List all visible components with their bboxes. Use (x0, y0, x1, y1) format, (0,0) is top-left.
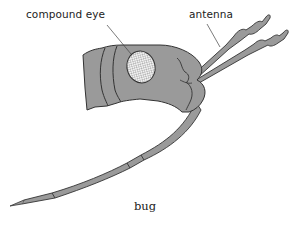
leg (10, 102, 201, 206)
compound-eye-label: compound eye (26, 8, 105, 20)
antenna-pointer (207, 24, 220, 47)
antenna-label: antenna (189, 8, 233, 20)
diagram-caption: bug (134, 199, 156, 213)
bug-diagram: compound eye antenna bug (0, 0, 295, 238)
